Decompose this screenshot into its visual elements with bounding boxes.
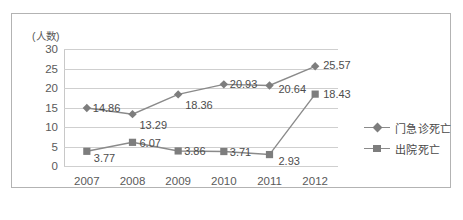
data-point — [266, 151, 273, 158]
data-point — [220, 148, 227, 155]
data-label: 3.77 — [94, 152, 115, 164]
data-point — [311, 62, 319, 70]
y-axis-tick: 5 — [52, 141, 58, 153]
chart-frame: (人数) 051015202530 2007200820092010201120… — [11, 13, 451, 188]
x-axis-tick: 2008 — [120, 175, 146, 187]
square-marker-icon — [364, 143, 390, 155]
y-axis-tick: 20 — [45, 82, 58, 94]
data-point — [265, 81, 273, 89]
chart-legend: 门急诊死亡出院死亡 — [364, 117, 454, 159]
y-axis-tick: 30 — [45, 43, 58, 55]
data-point — [83, 148, 90, 155]
y-axis-tick: 15 — [45, 102, 58, 114]
data-label: 6.07 — [140, 137, 161, 149]
legend-label: 出院死亡 — [395, 141, 440, 157]
y-axis-unit-label: (人数) — [32, 28, 60, 43]
data-label: 2.93 — [279, 155, 300, 167]
data-label: 20.93 — [230, 78, 258, 90]
x-axis-tick: 2010 — [211, 175, 237, 187]
data-label: 3.71 — [230, 146, 251, 158]
data-point — [175, 147, 182, 154]
x-axis-tick: 2007 — [74, 175, 100, 187]
legend-item-1[interactable]: 出院死亡 — [364, 138, 454, 159]
data-point — [129, 139, 136, 146]
legend-label: 门急诊死亡 — [395, 120, 452, 136]
data-label: 13.29 — [140, 119, 168, 131]
x-axis-tick: 2009 — [165, 175, 191, 187]
data-point — [83, 104, 91, 112]
plot-area: 051015202530 200720082009201020112012 14… — [64, 49, 338, 166]
legend-item-0[interactable]: 门急诊死亡 — [364, 117, 454, 138]
data-label: 18.36 — [185, 99, 213, 111]
data-point — [128, 110, 136, 118]
data-label: 3.86 — [184, 145, 205, 157]
data-label: 20.64 — [279, 83, 307, 95]
y-axis-tick: 0 — [52, 160, 58, 172]
diamond-marker-icon — [364, 122, 390, 134]
x-axis-tick: 2011 — [257, 175, 282, 187]
data-point — [220, 80, 228, 88]
y-axis-tick: 25 — [45, 63, 58, 75]
y-axis-tick: 10 — [45, 121, 58, 133]
data-point — [174, 90, 182, 98]
x-axis-tick: 2012 — [302, 175, 328, 187]
data-label: 25.57 — [323, 59, 351, 71]
data-label: 14.86 — [93, 102, 121, 114]
data-label: 18.43 — [323, 88, 351, 100]
data-point — [312, 91, 319, 98]
